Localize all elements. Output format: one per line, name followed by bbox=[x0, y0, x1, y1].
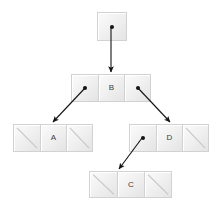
null-slash-icon bbox=[14, 125, 40, 151]
pointer-dot-icon bbox=[141, 136, 145, 140]
pointer-dot-icon bbox=[83, 86, 87, 90]
node-a-left-null-cell bbox=[13, 124, 40, 152]
null-slash-icon bbox=[145, 172, 171, 197]
node-c-left-null-cell bbox=[89, 171, 117, 198]
null-slash-icon bbox=[67, 125, 92, 151]
node-c-right-null-cell bbox=[144, 171, 172, 198]
pointer-dot-icon bbox=[136, 86, 140, 90]
node-d-data-cell: D bbox=[156, 124, 182, 152]
node-d-left-pointer-cell[interactable] bbox=[129, 124, 156, 152]
node-c-data-cell: C bbox=[117, 171, 144, 198]
binary-tree-diagram: B A D bbox=[0, 0, 219, 209]
null-slash-icon bbox=[183, 125, 208, 151]
node-b-data-cell: B bbox=[98, 74, 124, 102]
node-a-right-null-cell bbox=[66, 124, 93, 152]
node-b-right-pointer-cell[interactable] bbox=[124, 74, 151, 102]
tree-node-a[interactable]: A bbox=[13, 124, 93, 152]
null-slash-icon bbox=[90, 172, 117, 197]
node-b-left-pointer-cell[interactable] bbox=[71, 74, 98, 102]
tree-node-b[interactable]: B bbox=[71, 74, 151, 102]
tree-node-root[interactable] bbox=[97, 12, 127, 41]
tree-node-c[interactable]: C bbox=[89, 171, 172, 198]
tree-node-d[interactable]: D bbox=[129, 124, 209, 152]
node-a-data-cell: A bbox=[40, 124, 66, 152]
pointer-dot-icon bbox=[110, 25, 114, 29]
root-pointer-cell[interactable] bbox=[97, 12, 127, 41]
node-d-right-null-cell bbox=[182, 124, 209, 152]
